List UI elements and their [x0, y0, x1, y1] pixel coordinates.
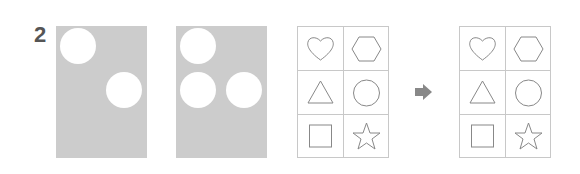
circle-icon — [506, 71, 551, 115]
right-arrow-icon — [415, 84, 432, 100]
hexagon-icon — [344, 27, 389, 71]
triangle-icon — [298, 71, 343, 115]
hole — [180, 28, 216, 64]
square-icon — [298, 115, 343, 159]
hexagon-icon — [506, 27, 551, 71]
circle-icon — [344, 71, 389, 115]
punched-panel-2 — [176, 26, 267, 158]
square-icon — [460, 115, 505, 159]
heart-icon — [460, 27, 505, 71]
triangle-icon — [460, 71, 505, 115]
hole — [60, 28, 96, 64]
shape-grid-after — [459, 26, 551, 158]
shape-grid-before — [297, 26, 389, 158]
star-icon — [344, 115, 389, 159]
punched-panel-1 — [56, 26, 147, 158]
hole — [226, 72, 262, 108]
heart-icon — [298, 27, 343, 71]
problem-number: 2 — [34, 22, 46, 48]
hole — [180, 72, 216, 108]
star-icon — [506, 115, 551, 159]
hole — [106, 72, 142, 108]
